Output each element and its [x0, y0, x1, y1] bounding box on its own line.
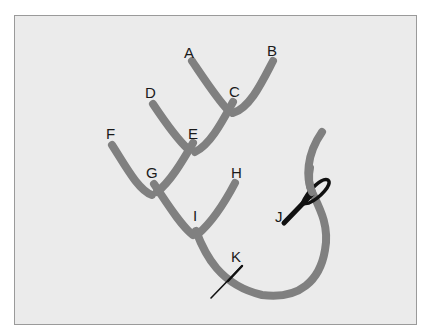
label-a: A: [184, 44, 194, 61]
label-e: E: [188, 125, 198, 142]
label-c: C: [229, 83, 240, 100]
label-i: I: [193, 207, 197, 224]
thread-segment-g-i: [154, 184, 193, 235]
feather-stitch-diagram: A B C D E F G H I J K: [0, 0, 433, 335]
label-h: H: [231, 164, 242, 181]
thread-arm-a: [192, 61, 228, 110]
label-b: B: [267, 42, 277, 59]
label-f: F: [106, 125, 115, 142]
needle-k-front: [228, 266, 242, 281]
label-d: D: [145, 84, 156, 101]
thread-segment-e-g: [157, 143, 193, 192]
thread-arm-d: [153, 104, 188, 149]
label-g: G: [146, 164, 158, 181]
label-k: K: [231, 248, 241, 265]
thread-through-eye: [309, 168, 312, 192]
label-j: J: [275, 208, 283, 225]
thread-segment-c-e: [195, 102, 233, 152]
thread-arm-h: [198, 183, 235, 234]
